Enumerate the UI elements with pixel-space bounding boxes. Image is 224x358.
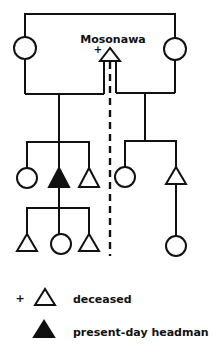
legend-headman-label: present-day headman [73,326,209,339]
legend-filled-triangle-icon [34,321,54,337]
mosonawa-triangle-icon [100,48,120,61]
grandson-right-triangle-icon [79,234,99,251]
left-daughter-circle-icon [17,168,37,188]
granddaughter-circle-icon [51,234,71,254]
right-daughter-circle-icon [115,167,135,187]
wife-right-circle-icon [164,38,186,60]
legend-deceased-label: deceased [73,293,132,306]
left-son-triangle-icon [79,168,99,187]
top-generation: Mosonawa + [14,14,186,94]
legend-deceased-marker: + [15,292,24,305]
wife-left-circle-icon [14,37,36,59]
right-sibling-bar [125,141,176,167]
right-granddaughter-circle-icon [166,236,186,256]
right-son-triangle-icon [166,167,186,184]
mosonawa-label: Mosonawa [80,33,145,46]
headman-filled-triangle-icon [49,168,69,187]
grandson-left-triangle-icon [17,234,37,251]
legend: + deceased present-day headman [15,289,208,339]
legend-open-triangle-icon [35,289,55,305]
left-branch [17,94,99,254]
kinship-diagram: Mosonawa + + deceased present-day headma… [0,0,224,358]
right-branch [115,93,186,256]
deceased-marker: + [94,44,102,55]
